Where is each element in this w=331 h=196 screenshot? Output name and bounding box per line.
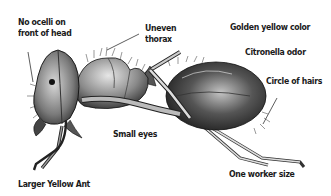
label-thorax-line2: thorax	[145, 33, 176, 44]
label-size: One worker size	[229, 168, 295, 179]
label-odor: Citronella odor	[245, 46, 306, 57]
label-hairs: Circle of hairs	[266, 75, 322, 86]
gaster	[166, 62, 266, 130]
label-ocelli-line2: front of head	[18, 27, 71, 38]
label-eyes: Small eyes	[113, 128, 157, 139]
label-ocelli-line1: No ocelli on	[18, 16, 71, 27]
diagram-title: Larger Yellow Ant	[18, 178, 90, 189]
label-thorax: Uneven thorax	[145, 22, 176, 44]
ant-diagram: No ocelli on front of head Uneven thorax…	[0, 0, 331, 196]
head	[34, 50, 79, 124]
label-thorax-line1: Uneven	[145, 22, 176, 33]
label-color: Golden yellow color	[230, 21, 310, 32]
label-ocelli: No ocelli on front of head	[18, 16, 71, 38]
eye	[49, 79, 55, 85]
